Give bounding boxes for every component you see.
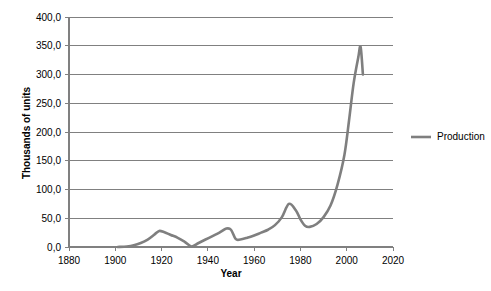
y-tick-label: 150,0 bbox=[36, 155, 61, 166]
y-tick-label: 300,0 bbox=[36, 69, 61, 80]
y-tick-label: 350,0 bbox=[36, 40, 61, 51]
x-tick-label: 2000 bbox=[336, 255, 359, 266]
x-axis-title: Year bbox=[220, 268, 241, 279]
x-tick-label: 1980 bbox=[289, 255, 312, 266]
x-tick-label: 1960 bbox=[243, 255, 266, 266]
production-line-chart: 0,050,0100,0150,0200,0250,0300,0350,0400… bbox=[0, 0, 491, 291]
y-tick-label: 0,0 bbox=[47, 242, 61, 253]
y-axis-title: Thousands of units bbox=[21, 86, 32, 179]
chart-container: 0,050,0100,0150,0200,0250,0300,0350,0400… bbox=[0, 0, 491, 291]
y-tick-label: 250,0 bbox=[36, 98, 61, 109]
x-tick-label: 1880 bbox=[58, 255, 81, 266]
x-tick-label: 1920 bbox=[150, 255, 173, 266]
y-tick-label: 200,0 bbox=[36, 127, 61, 138]
x-tick-label: 2020 bbox=[382, 255, 405, 266]
x-tick-label: 1900 bbox=[104, 255, 127, 266]
legend-label-production: Production bbox=[437, 131, 485, 142]
x-tick-label: 1940 bbox=[197, 255, 220, 266]
y-tick-label: 50,0 bbox=[42, 213, 62, 224]
y-tick-label: 100,0 bbox=[36, 184, 61, 195]
y-tick-label: 400,0 bbox=[36, 12, 61, 23]
